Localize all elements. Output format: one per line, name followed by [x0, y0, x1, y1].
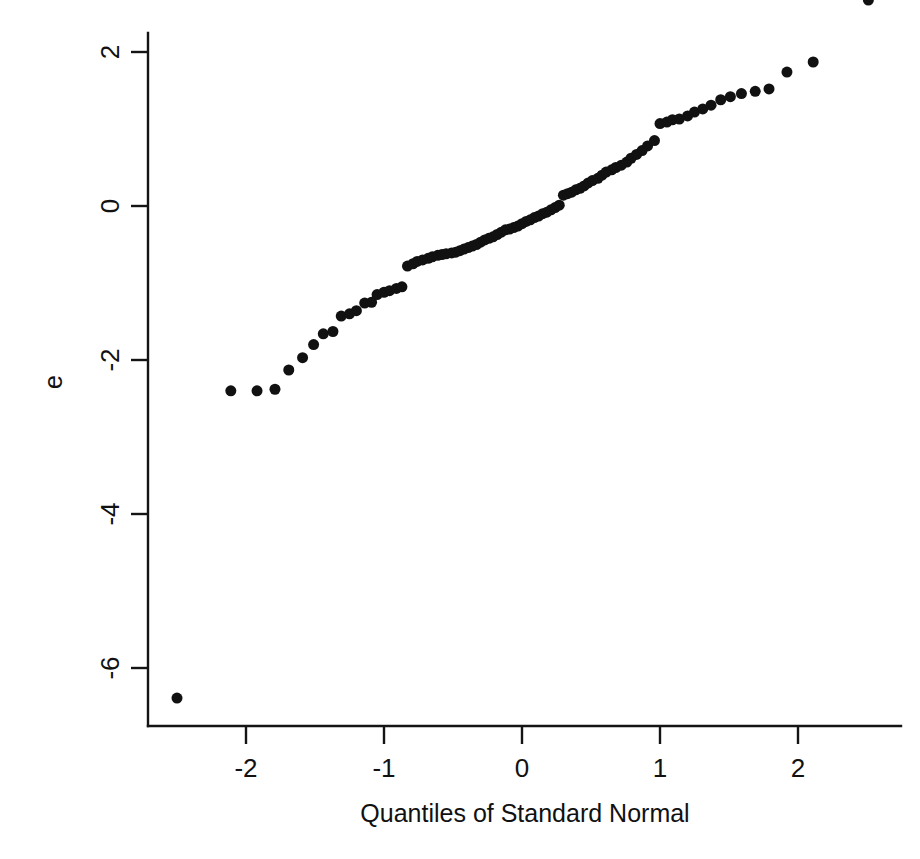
data-point — [808, 57, 819, 68]
qq-plot-canvas: 20-2-4-6 -2-1012 e Quantiles of Standard… — [0, 0, 920, 859]
y-tick-label: 2 — [95, 45, 125, 59]
x-axis-title: Quantiles of Standard Normal — [360, 799, 689, 827]
y-tick-label: -2 — [95, 348, 125, 371]
y-tick-label: -4 — [95, 502, 125, 525]
data-point — [327, 326, 338, 337]
x-tick-label: -2 — [234, 753, 257, 783]
data-point — [736, 88, 747, 99]
data-point — [706, 100, 717, 111]
y-tick-label: -6 — [95, 656, 125, 679]
data-point — [269, 384, 280, 395]
scatter-points-layer — [172, 0, 874, 704]
x-axis-ticks — [246, 726, 798, 744]
data-point — [725, 91, 736, 102]
y-axis-title: e — [39, 375, 67, 389]
data-point — [351, 305, 362, 316]
data-point — [715, 94, 726, 105]
x-tick-label: 2 — [791, 753, 805, 783]
data-point — [649, 135, 660, 146]
data-point — [750, 86, 761, 97]
y-axis-ticks — [131, 52, 148, 668]
qq-plot-figure: 20-2-4-6 -2-1012 e Quantiles of Standard… — [0, 0, 920, 859]
x-axis-tick-labels: -2-1012 — [234, 753, 805, 783]
data-point — [396, 281, 407, 292]
y-tick-label: 0 — [95, 199, 125, 213]
data-point — [172, 693, 183, 704]
data-point — [764, 83, 775, 94]
data-point — [308, 339, 319, 350]
data-point — [554, 200, 565, 211]
y-axis-tick-labels: 20-2-4-6 — [95, 45, 125, 680]
data-point — [297, 352, 308, 363]
data-point — [283, 365, 294, 376]
data-point — [318, 328, 329, 339]
x-tick-label: 1 — [653, 753, 667, 783]
x-tick-label: -1 — [372, 753, 395, 783]
data-point — [863, 0, 874, 6]
x-tick-label: 0 — [515, 753, 529, 783]
data-point — [781, 67, 792, 78]
data-point — [252, 385, 263, 396]
data-point — [225, 385, 236, 396]
